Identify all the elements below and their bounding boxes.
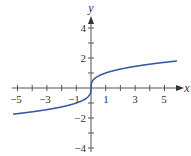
- y-axis-arrow-icon: [88, 16, 94, 24]
- y-tick-label: 4: [81, 22, 87, 34]
- y-tick-label: −4: [74, 142, 86, 154]
- x-tick-label: 5: [161, 93, 167, 105]
- x-axis-arrow-icon: [176, 85, 184, 91]
- y-tick-label: 2: [81, 52, 87, 64]
- x-tick-label: 1: [103, 93, 109, 105]
- x-axis-label: x: [183, 81, 190, 95]
- x-tick-label: −3: [39, 93, 51, 105]
- cube-root-chart: −5 −3 −1 1 3 5 4 2 −2 −4 x y: [0, 0, 191, 156]
- x-tick-label: −5: [10, 93, 22, 105]
- y-axis-label: y: [87, 1, 94, 15]
- y-tick-label: −2: [74, 112, 86, 124]
- x-tick-label: 3: [132, 93, 138, 105]
